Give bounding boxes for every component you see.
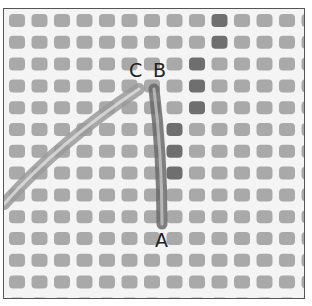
label-b: B [153, 61, 166, 80]
canvas-grid [4, 9, 304, 298]
canvas-photo: C B A [3, 8, 305, 299]
label-c: C [129, 61, 142, 80]
label-a: A [155, 231, 168, 250]
